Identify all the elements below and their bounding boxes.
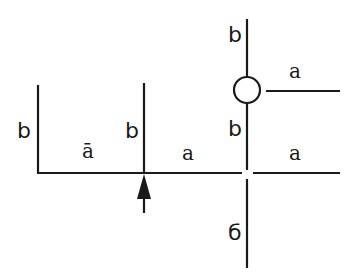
label-middle-b: b: [125, 120, 139, 142]
label-bottom-6: б: [228, 222, 242, 244]
up-arrow-icon: [137, 174, 151, 199]
label-top-right-b: b: [228, 24, 242, 46]
label-left-a-macron: ā: [82, 140, 94, 162]
label-right-middle-b: b: [228, 118, 242, 140]
diagram-canvas: [0, 0, 359, 280]
label-right-bottom-a: a: [289, 142, 301, 164]
label-circle-right-a: a: [289, 60, 301, 82]
label-left-b: b: [17, 120, 31, 142]
circle-junction-icon: [234, 77, 260, 103]
label-middle-a: a: [182, 142, 194, 164]
